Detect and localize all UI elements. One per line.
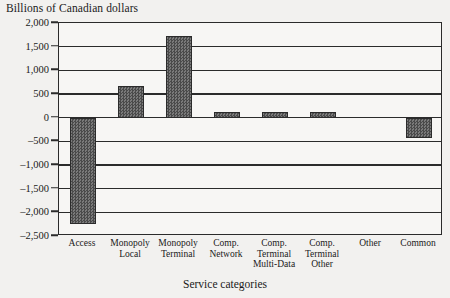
x-axis-label-line: Terminal bbox=[292, 249, 352, 260]
plot-area bbox=[58, 22, 442, 235]
x-axis-title: Service categories bbox=[0, 278, 450, 290]
y-axis-tick-label: –1,000 bbox=[20, 159, 49, 170]
y-axis-tick-label: 0 bbox=[44, 111, 49, 122]
bar-monopoly-local bbox=[118, 86, 144, 117]
y-axis-tick bbox=[51, 234, 58, 236]
bar-comp-terminal-other bbox=[310, 112, 336, 118]
bar-monopoly-terminal bbox=[166, 36, 192, 117]
x-axis-category-labels: AccessMonopolyLocalMonopolyTerminalComp.… bbox=[58, 238, 442, 272]
y-axis-tick-label: –500 bbox=[28, 135, 49, 146]
y-axis-tick bbox=[51, 163, 58, 165]
y-axis-tick bbox=[51, 116, 58, 118]
bar-common bbox=[406, 118, 432, 138]
y-axis-tick bbox=[51, 211, 58, 213]
y-axis-tick-label: 500 bbox=[33, 88, 49, 99]
y-axis-tick bbox=[51, 45, 58, 47]
gridline bbox=[59, 117, 441, 119]
y-axis-tick bbox=[51, 21, 58, 23]
x-axis-label-line: Other bbox=[292, 259, 352, 270]
y-axis-tick-label: 1,500 bbox=[25, 40, 49, 51]
bar-chart-figure: Billions of Canadian dollars 2,0001,5001… bbox=[0, 0, 450, 298]
bar-comp-terminal-multi-data bbox=[262, 112, 288, 118]
y-axis-tick bbox=[51, 92, 58, 94]
gridline bbox=[59, 70, 441, 72]
gridline bbox=[59, 188, 441, 190]
y-axis-tick bbox=[51, 140, 58, 142]
y-axis: 2,0001,5001,0005000–500–1,000–1,500–2,00… bbox=[0, 0, 58, 298]
y-axis-tick bbox=[51, 187, 58, 189]
y-axis-tick-label: –2,000 bbox=[20, 206, 49, 217]
x-axis-label-line: Common bbox=[388, 238, 448, 249]
bar-comp-network bbox=[214, 112, 240, 118]
y-axis-tick-label: –2,500 bbox=[20, 230, 49, 241]
y-axis-tick-label: –1,500 bbox=[20, 182, 49, 193]
x-axis-label-common: Common bbox=[388, 238, 448, 249]
y-axis-tick-label: 2,000 bbox=[25, 17, 49, 28]
gridline bbox=[59, 164, 441, 166]
gridline bbox=[59, 46, 441, 48]
gridline bbox=[59, 141, 441, 143]
gridline bbox=[59, 93, 441, 95]
y-axis-tick bbox=[51, 69, 58, 71]
gridline bbox=[59, 212, 441, 214]
y-axis-tick-label: 1,000 bbox=[25, 64, 49, 75]
bar-access bbox=[70, 118, 96, 224]
